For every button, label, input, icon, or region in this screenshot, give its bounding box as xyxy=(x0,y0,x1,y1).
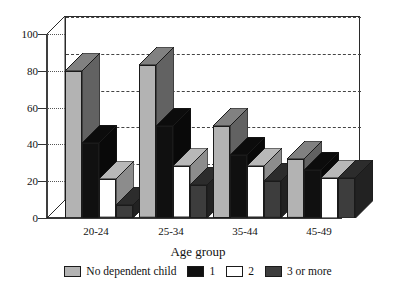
x-axis-title: Age group xyxy=(0,245,396,258)
legend-item[interactable]: No dependent child xyxy=(64,266,176,278)
x-tick-label-3: 45-49 xyxy=(283,226,355,237)
legend-item[interactable]: 1 xyxy=(187,266,215,278)
bar xyxy=(338,160,373,218)
legend-label: 2 xyxy=(248,266,254,278)
legend-swatch xyxy=(187,266,204,277)
bar-chart: 100 80 60 40 20 0 20-24 25-34 35-44 45-4… xyxy=(0,0,396,295)
legend-label: 1 xyxy=(209,266,215,278)
x-tick-label-1: 25-34 xyxy=(135,226,207,237)
x-tick-label-0: 20-24 xyxy=(60,226,132,237)
legend-item[interactable]: 2 xyxy=(226,266,254,278)
legend-label: 3 or more xyxy=(287,266,332,278)
bar-3d-solid xyxy=(338,160,373,218)
chart-legend: No dependent child123 or more xyxy=(0,266,396,278)
legend-swatch xyxy=(64,266,81,277)
legend-label: No dependent child xyxy=(86,266,176,278)
legend-item[interactable]: 3 or more xyxy=(265,266,332,278)
x-tick-label-2: 35-44 xyxy=(209,226,281,237)
legend-swatch xyxy=(226,266,243,277)
legend-swatch xyxy=(265,266,282,277)
